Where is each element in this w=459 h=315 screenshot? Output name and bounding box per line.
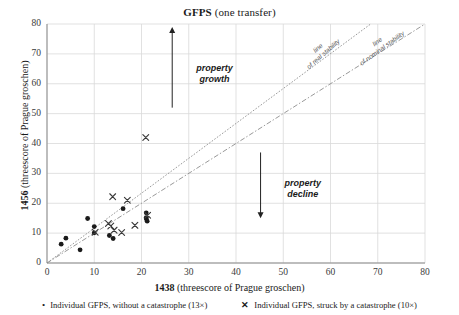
legend-dot-icon: • [42, 301, 45, 310]
legend-label-struck-by-catastrophe: Individual GFPS, struck by a catastrophe… [254, 300, 417, 310]
data-point-dot [107, 233, 112, 238]
data-point-cross [111, 227, 117, 233]
data-point-cross [143, 135, 149, 141]
legend-item-without-catastrophe: • Individual GFPS, without a catastrophe… [42, 300, 207, 310]
annotation-label-line2: decline [285, 189, 322, 200]
annotation-label-property-growth: propertygrowth [196, 63, 233, 86]
data-point-cross [124, 197, 130, 203]
x-tick-50: 50 [272, 267, 294, 277]
data-point-cross [119, 230, 125, 236]
y-tick-80: 80 [19, 18, 41, 28]
x-tick-20: 20 [131, 267, 153, 277]
data-point-dot [78, 247, 83, 252]
annotation-label-line1: property [196, 63, 233, 74]
x-tick-10: 10 [83, 267, 105, 277]
y-tick-0: 0 [19, 257, 41, 267]
annotation-label-property-decline: propertydecline [285, 178, 322, 201]
y-tick-40: 40 [19, 138, 41, 148]
y-tick-10: 10 [19, 227, 41, 237]
scatter-chart-figure: GFPS (one transfer) 1456 (threescore of … [0, 0, 459, 315]
x-tick-30: 30 [178, 267, 200, 277]
y-tick-30: 30 [19, 167, 41, 177]
legend-item-struck-by-catastrophe: ✕ Individual GFPS, struck by a catastrop… [241, 300, 417, 310]
data-point-dot [92, 224, 97, 229]
series-without-catastrophe [59, 206, 150, 252]
data-point-cross [108, 223, 114, 229]
x-tick-80: 80 [414, 267, 436, 277]
y-tick-60: 60 [19, 78, 41, 88]
data-point-cross [110, 194, 116, 200]
annotation-label-line2: growth [196, 74, 233, 85]
y-tick-70: 70 [19, 48, 41, 58]
data-point-cross [132, 222, 138, 228]
data-point-dot [59, 242, 64, 247]
data-point-dot [85, 216, 90, 221]
data-point-dot [145, 219, 150, 224]
legend-label-without-catastrophe: Individual GFPS, without a catastrophe (… [50, 300, 207, 310]
legend-cross-icon: ✕ [241, 301, 249, 310]
data-point-dot [121, 206, 126, 211]
y-tick-50: 50 [19, 108, 41, 118]
chart-legend: • Individual GFPS, without a catastrophe… [0, 300, 459, 310]
data-point-dot [64, 236, 69, 241]
x-tick-0: 0 [36, 267, 58, 277]
y-tick-20: 20 [19, 197, 41, 207]
x-tick-70: 70 [367, 267, 389, 277]
x-tick-40: 40 [225, 267, 247, 277]
data-point-dot [111, 236, 116, 241]
annotation-label-line1: property [285, 178, 322, 189]
x-tick-60: 60 [320, 267, 342, 277]
